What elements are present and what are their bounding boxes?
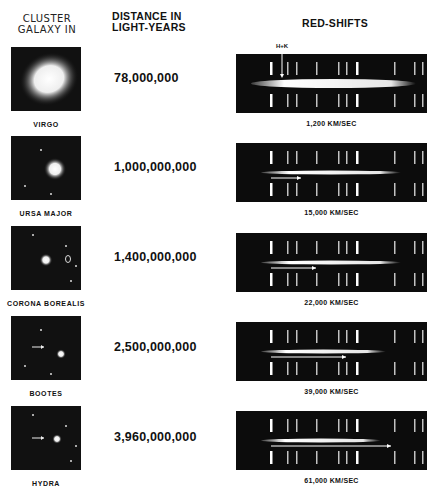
- comparison-line: [422, 451, 424, 464]
- comparison-line: [316, 273, 318, 286]
- comparison-line: [287, 183, 289, 196]
- comparison-line: [296, 151, 298, 164]
- galaxy-image: [11, 316, 81, 380]
- galaxy-image: [11, 47, 81, 111]
- galaxy-image: [11, 226, 81, 290]
- comparison-line: [346, 151, 348, 164]
- shift-arrowhead: [297, 176, 301, 180]
- galaxy-image: [11, 136, 81, 200]
- comparison-line: [346, 62, 348, 75]
- comparison-line: [356, 362, 359, 375]
- comparison-line: [394, 419, 396, 432]
- comparison-line: [356, 241, 359, 254]
- comparison-line: [394, 362, 396, 375]
- comparison-line: [346, 451, 348, 464]
- comparison-line: [270, 330, 273, 343]
- comparison-line: [296, 419, 298, 432]
- comparison-line: [338, 451, 340, 464]
- comparison-line: [346, 419, 348, 432]
- comparison-line: [414, 62, 416, 75]
- comparison-line: [270, 362, 273, 375]
- comparison-line: [414, 273, 416, 286]
- comparison-line: [356, 451, 359, 464]
- distance-value: 1,400,000,000: [114, 250, 224, 264]
- comparison-line: [422, 241, 424, 254]
- comparison-line: [287, 241, 289, 254]
- comparison-line: [270, 241, 273, 254]
- spectrum-plate: [236, 411, 427, 470]
- comparison-line: [346, 241, 348, 254]
- velocity-value: 39,000 KM/SEC: [236, 388, 427, 395]
- comparison-line: [414, 451, 416, 464]
- comparison-line: [338, 330, 340, 343]
- spectrum-plate: [236, 322, 427, 381]
- comparison-line: [422, 62, 424, 75]
- comparison-line: [394, 62, 396, 75]
- comparison-line: [338, 273, 340, 286]
- comparison-line: [338, 241, 340, 254]
- galaxy-spectrum: [261, 261, 401, 265]
- galaxy-spectrum: [251, 79, 416, 88]
- comparison-line: [270, 151, 273, 164]
- comparison-line: [287, 451, 289, 464]
- hk-label: H+K: [276, 43, 288, 49]
- comparison-line: [394, 94, 396, 107]
- comparison-line: [356, 419, 359, 432]
- comparison-line: [346, 94, 348, 107]
- comparison-line: [414, 362, 416, 375]
- comparison-line: [287, 362, 289, 375]
- comparison-line: [296, 451, 298, 464]
- galaxy-name: URSA MAJOR: [0, 210, 92, 217]
- comparison-line: [394, 451, 396, 464]
- comparison-line: [414, 330, 416, 343]
- comparison-line: [414, 419, 416, 432]
- comparison-line: [338, 419, 340, 432]
- comparison-line: [316, 94, 318, 107]
- comparison-line: [296, 94, 298, 107]
- comparison-line: [296, 330, 298, 343]
- comparison-line: [346, 330, 348, 343]
- shift-arrowhead: [312, 266, 316, 270]
- comparison-line: [414, 183, 416, 196]
- comparison-line: [287, 330, 289, 343]
- distance-value: 78,000,000: [114, 71, 224, 85]
- galaxy-spectrum: [261, 350, 386, 354]
- spectrum-plate: [236, 233, 427, 292]
- galaxy-name: CORONA BOREALIS: [0, 300, 92, 307]
- galaxy-name: HYDRA: [0, 480, 92, 487]
- comparison-line: [338, 94, 340, 107]
- comparison-line: [316, 62, 318, 75]
- comparison-line: [394, 151, 396, 164]
- comparison-line: [316, 151, 318, 164]
- comparison-line: [270, 94, 273, 107]
- comparison-line: [356, 151, 359, 164]
- header-cluster-line1: CLUSTER: [8, 13, 86, 24]
- comparison-line: [422, 330, 424, 343]
- comparison-line: [394, 241, 396, 254]
- column-header-redshifts: RED-SHIFTS: [300, 18, 370, 29]
- comparison-line: [296, 362, 298, 375]
- comparison-line: [422, 273, 424, 286]
- comparison-line: [338, 183, 340, 196]
- comparison-line: [346, 273, 348, 286]
- comparison-line: [356, 273, 359, 286]
- comparison-line: [338, 362, 340, 375]
- comparison-line: [270, 419, 273, 432]
- comparison-line: [422, 362, 424, 375]
- comparison-line: [296, 62, 298, 75]
- comparison-line: [296, 241, 298, 254]
- comparison-line: [422, 183, 424, 196]
- header-distance-line2: LIGHT-YEARS: [112, 22, 202, 33]
- column-header-cluster: CLUSTER GALAXY IN: [8, 13, 86, 35]
- comparison-line: [338, 151, 340, 164]
- galaxy-name: VIRGO: [0, 121, 92, 128]
- spectrum-plate: [236, 54, 427, 113]
- comparison-line: [287, 94, 289, 107]
- shift-arrowhead: [387, 444, 391, 448]
- comparison-line: [316, 183, 318, 196]
- comparison-line: [316, 451, 318, 464]
- distance-value: 3,960,000,000: [114, 430, 224, 444]
- velocity-value: 22,000 KM/SEC: [236, 299, 427, 306]
- comparison-line: [394, 330, 396, 343]
- distance-value: 1,000,000,000: [114, 160, 224, 174]
